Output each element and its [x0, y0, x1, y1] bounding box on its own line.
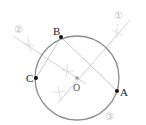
label-c: C: [26, 72, 33, 84]
step-label-3: ③: [105, 111, 114, 122]
label-o: O: [73, 82, 80, 93]
label-b: B: [53, 25, 60, 37]
center-point-o: [76, 77, 79, 80]
step-label-1: ①: [114, 10, 123, 21]
circumcircle-construction-diagram: A B C O ① ② ③: [0, 0, 146, 125]
label-a: A: [120, 86, 128, 98]
step-label-2: ②: [14, 24, 23, 35]
point-a: [115, 89, 119, 93]
point-c: [34, 76, 38, 80]
